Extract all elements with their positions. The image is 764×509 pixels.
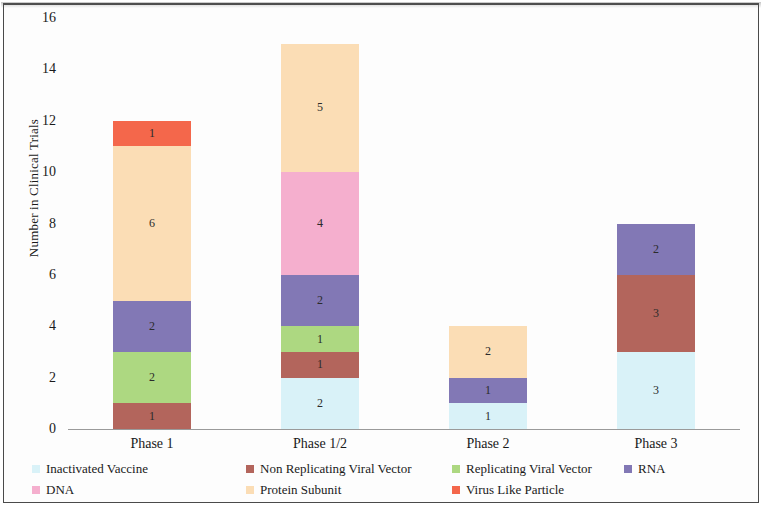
y-axis-tick-8: 8 [49, 216, 56, 232]
y-axis-tick-10: 10 [42, 164, 56, 180]
bar-segment[interactable]: 1 [281, 352, 359, 378]
legend-swatch-icon [624, 465, 632, 473]
bar-segment-value: 6 [149, 216, 155, 231]
x-axis-line [68, 429, 740, 430]
legend-item[interactable]: RNA [624, 462, 665, 475]
legend-label: Replicating Viral Vector [466, 462, 592, 475]
bar-segment-value: 1 [317, 357, 323, 372]
legend-label: Non Replicating Viral Vector [260, 462, 411, 475]
bar-segment-value: 4 [317, 216, 323, 231]
bar-segment[interactable]: 2 [449, 326, 527, 377]
bar-segment-value: 1 [485, 383, 491, 398]
legend-item[interactable]: Virus Like Particle [452, 483, 564, 496]
legend-swatch-icon [452, 465, 460, 473]
bar-segment-value: 5 [317, 100, 323, 115]
y-axis-tick-14: 14 [42, 61, 56, 77]
bar-segment-value: 2 [149, 370, 155, 385]
bar-group-3: 112 [404, 18, 572, 429]
y-axis-tick-6: 6 [49, 267, 56, 283]
bar-segment[interactable]: 1 [281, 326, 359, 352]
bar-segment-value: 2 [653, 242, 659, 257]
stacked-bar[interactable]: 211245 [281, 44, 359, 429]
y-axis-tick-12: 12 [42, 113, 56, 129]
y-axis-tick-2: 2 [49, 370, 56, 386]
legend-swatch-icon [246, 486, 254, 494]
y-axis-tick-4: 4 [49, 318, 56, 334]
bar-segment[interactable]: 2 [113, 352, 191, 403]
y-axis-tick-16: 16 [42, 10, 56, 26]
legend-label: Virus Like Particle [466, 483, 564, 496]
x-axis-label-4: Phase 3 [572, 436, 740, 452]
legend-item[interactable]: Protein Subunit [246, 483, 341, 496]
bar-segment[interactable]: 2 [617, 224, 695, 275]
legend-label: DNA [46, 483, 74, 496]
bar-segment[interactable]: 5 [281, 44, 359, 172]
bar-segment-value: 2 [485, 344, 491, 359]
x-axis-label-3: Phase 2 [404, 436, 572, 452]
legend-label: RNA [638, 462, 665, 475]
legend-label: Protein Subunit [260, 483, 341, 496]
legend-swatch-icon [452, 486, 460, 494]
bar-segment[interactable]: 4 [281, 172, 359, 275]
bar-segment-value: 1 [317, 332, 323, 347]
bar-group-4: 332 [572, 18, 740, 429]
bar-segment-value: 1 [485, 409, 491, 424]
legend-row-1: Inactivated VaccineNon Replicating Viral… [24, 458, 740, 479]
bar-segment[interactable]: 3 [617, 275, 695, 352]
y-axis-tick-0: 0 [49, 421, 56, 437]
bar-segment[interactable]: 1 [113, 403, 191, 429]
plot-area: 12261211245112332 [68, 18, 740, 429]
bar-segment-value: 1 [149, 126, 155, 141]
legend-item[interactable]: Replicating Viral Vector [452, 462, 592, 475]
bar-segment-value: 3 [653, 306, 659, 321]
bar-segment[interactable]: 2 [281, 378, 359, 429]
stacked-bar[interactable]: 332 [617, 224, 695, 430]
bar-segment-value: 1 [149, 409, 155, 424]
bar-segment[interactable]: 2 [281, 275, 359, 326]
bar-segment[interactable]: 3 [617, 352, 695, 429]
bar-segment-value: 2 [317, 293, 323, 308]
bar-segment[interactable]: 1 [449, 403, 527, 429]
bar-segment-value: 2 [149, 319, 155, 334]
legend-label: Inactivated Vaccine [46, 462, 148, 475]
y-axis-tick-labels: 0246810121416 [0, 0, 68, 440]
x-axis-label-2: Phase 1/2 [236, 436, 404, 452]
bar-segment[interactable]: 2 [113, 301, 191, 352]
legend-swatch-icon [32, 486, 40, 494]
stacked-bar[interactable]: 112 [449, 326, 527, 429]
legend-row-2: DNAProtein SubunitVirus Like Particle [24, 479, 740, 500]
chart-legend: Inactivated VaccineNon Replicating Viral… [24, 458, 740, 500]
bar-segment[interactable]: 6 [113, 146, 191, 300]
stacked-bar[interactable]: 12261 [113, 121, 191, 429]
bar-segment[interactable]: 1 [449, 378, 527, 404]
stacked-bar-chart: Number in Clinical Trials 0246810121416 … [0, 0, 764, 509]
bar-group-2: 211245 [236, 18, 404, 429]
legend-swatch-icon [246, 465, 254, 473]
legend-item[interactable]: Inactivated Vaccine [32, 462, 148, 475]
legend-item[interactable]: DNA [32, 483, 74, 496]
bar-segment[interactable]: 1 [113, 121, 191, 147]
x-axis-label-1: Phase 1 [68, 436, 236, 452]
legend-swatch-icon [32, 465, 40, 473]
legend-item[interactable]: Non Replicating Viral Vector [246, 462, 411, 475]
bar-group-1: 12261 [68, 18, 236, 429]
bar-segment-value: 2 [317, 396, 323, 411]
bar-segment-value: 3 [653, 383, 659, 398]
